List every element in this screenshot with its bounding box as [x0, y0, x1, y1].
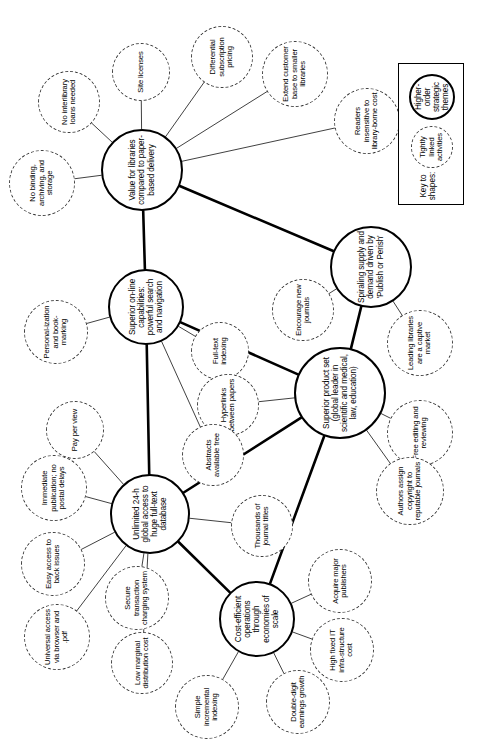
activity-node-encourage-journals[interactable]: Encourage new journals [272, 279, 334, 341]
activity-node-high-fixed-cost[interactable]: High fixed IT infra-structure cost [310, 618, 374, 682]
activity-node-authors-assign[interactable]: Authors assign copyright to reputable jo… [376, 457, 444, 525]
activity-node-full-text-indexing[interactable]: Full-text indexing [191, 322, 249, 380]
legend-title: Key to shapes: [419, 170, 437, 202]
node-label: Simple incremental indexing [194, 676, 220, 738]
node-label: Low marginal distribution cost [134, 633, 151, 693]
activity-node-readers-insensitive[interactable]: Readers insensitive to library-borne cos… [334, 88, 400, 154]
activity-node-personalization[interactable]: Personal-ization and book-marking [24, 300, 88, 364]
node-label: Site licenses [137, 48, 146, 95]
theme-node-superior-online[interactable]: Superior on-line capabilities: powerful … [108, 269, 184, 345]
theme-node-cost-efficient[interactable]: Cost-efficient operations through econom… [219, 581, 295, 657]
node-label: Double-digit earnings growth [290, 671, 307, 733]
activity-node-simple-indexing[interactable]: Simple incremental indexing [175, 675, 239, 739]
activity-node-immediate-publication[interactable]: Immediate publication; no postal delays [21, 455, 87, 521]
node-label: Unlimited 24-h global access to huge ful… [132, 476, 169, 552]
node-label: Secure transaction charging system [124, 567, 150, 629]
node-label: Extend customer base to smaller librarie… [282, 42, 308, 106]
node-label: Superior on-line capabilities: powerful … [128, 271, 165, 343]
node-label: No binding, archiving, and storage [29, 151, 55, 215]
activity-node-pay-per-view[interactable]: Pay per view [46, 401, 104, 459]
node-label: No interlibrary loans needed [61, 72, 78, 132]
node-label: Value for libraries compared to paper-ba… [128, 131, 156, 209]
activity-node-secure-transaction[interactable]: Secure transaction charging system [105, 566, 169, 630]
node-label: Differential subscription pricing [209, 27, 235, 87]
node-label: Abstracts available free [205, 425, 222, 485]
theme-node-value-libraries[interactable]: Value for libraries compared to paper-ba… [101, 129, 183, 211]
node-label: Authors assign copyright to reputable jo… [397, 458, 423, 524]
node-label: Cost-efficient operations through econom… [234, 583, 280, 655]
node-label: High fixed IT infra-structure cost [329, 619, 355, 681]
activity-node-extend-customer-base[interactable]: Extend customer base to smaller librarie… [262, 41, 328, 107]
node-label: Easy access to back issues [45, 533, 62, 595]
node-label: Pay per view [71, 406, 80, 454]
node-label: Leading libraries are a captive market [407, 311, 433, 375]
activity-node-no-interlibrary-loans[interactable]: No interlibrary loans needed [38, 71, 100, 133]
node-label: Acquire major publishers [332, 550, 349, 612]
node-label: Encourage new journals [295, 280, 312, 340]
node-label: Free editing and reviewing [412, 401, 429, 465]
theme-node-unlimited-access[interactable]: Unlimited 24-h global access to huge ful… [110, 474, 190, 554]
node-label: Thousands of journal titles [254, 496, 271, 556]
node-label: Spiraling supply and demand driven by 'P… [357, 228, 385, 306]
node-label: Readers insensitive to library-borne cos… [354, 89, 380, 153]
legend-theme-label: Higher-order strategic themes [414, 76, 451, 118]
legend-box: Higher-order strategic themes Tightly li… [398, 63, 464, 205]
activity-node-acquire-publishers[interactable]: Acquire major publishers [308, 549, 372, 613]
legend-activity-label: Tightly linked activities [419, 127, 445, 167]
activity-node-leading-libraries[interactable]: Leading libraries are a captive market [387, 310, 453, 376]
activity-node-abstracts-free[interactable]: Abstracts available free [182, 424, 244, 486]
theme-node-superior-product[interactable]: Superior product set (global leader in s… [294, 347, 386, 439]
legend-activity-swatch: Tightly linked activities [411, 126, 453, 168]
diagram-canvas: Value for libraries compared to paper-ba… [0, 0, 482, 750]
activity-node-low-marginal[interactable]: Low marginal distribution cost [111, 632, 173, 694]
activity-node-universal-access[interactable]: Universal access via browser and .pdf [24, 604, 90, 670]
activity-node-no-binding[interactable]: No binding, archiving, and storage [9, 150, 75, 216]
legend-theme-swatch: Higher-order strategic themes [409, 74, 455, 120]
activity-node-differential-pricing[interactable]: Differential subscription pricing [191, 26, 253, 88]
activity-node-free-editing[interactable]: Free editing and reviewing [387, 400, 453, 466]
activity-node-thousands-journals[interactable]: Thousands of journal titles [231, 495, 293, 557]
node-label: Full-text indexing [212, 323, 229, 379]
activity-node-site-licenses[interactable]: Site licenses [112, 43, 170, 101]
node-label: Superior product set (global leader in s… [322, 349, 359, 437]
activity-node-easy-back-issues[interactable]: Easy access to back issues [21, 532, 85, 596]
node-label: Immediate publication; no postal delays [41, 456, 67, 520]
node-label: Personal-ization and book-marking [43, 301, 69, 363]
mind-map: Value for libraries compared to paper-ba… [0, 0, 482, 750]
theme-node-spiraling-supply[interactable]: Spiraling supply and demand driven by 'P… [330, 226, 412, 308]
node-label: Universal access via browser and .pdf [44, 605, 70, 669]
activity-node-double-digit[interactable]: Double-digit earnings growth [266, 670, 330, 734]
